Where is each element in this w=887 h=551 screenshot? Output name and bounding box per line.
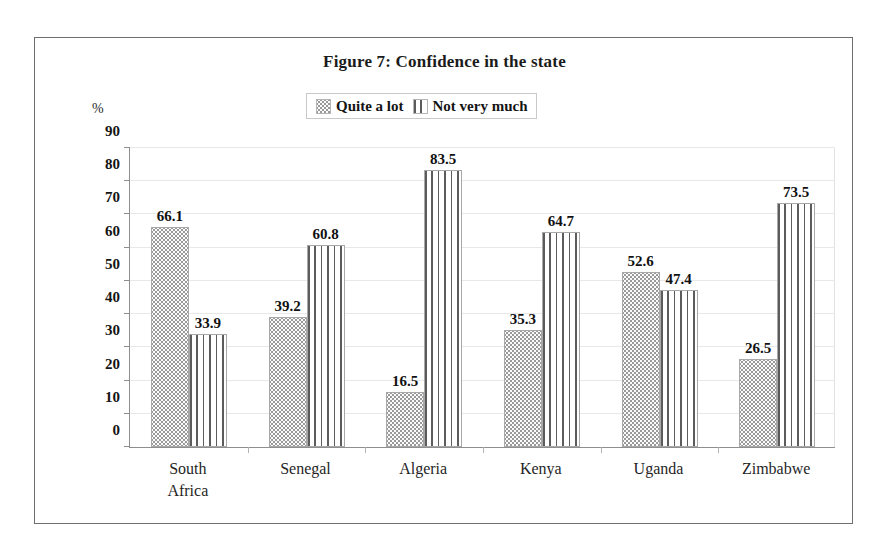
plot-area: 0102030405060708090 66.133.939.260.816.5… <box>129 148 835 448</box>
bar: 26.5 <box>739 359 777 447</box>
y-axis-tick-label: 80 <box>105 156 120 173</box>
x-axis-category-label: Kenya <box>482 458 600 480</box>
bar: 66.1 <box>151 227 189 447</box>
legend-label: Quite a lot <box>336 98 404 115</box>
chart-legend: Quite a lotNot very much <box>306 93 537 119</box>
bar-value-label: 64.7 <box>548 213 574 230</box>
legend-swatch-quite-a-lot <box>316 99 331 114</box>
bar-group: 16.583.5 <box>386 148 462 447</box>
bar-group: 35.364.7 <box>504 148 580 447</box>
x-axis-category-label: Uganda <box>600 458 718 480</box>
y-axis-tick-label: 40 <box>105 289 120 306</box>
x-axis-category-labels: South AfricaSenegalAlgeriaKenyaUgandaZim… <box>129 458 835 516</box>
bar-value-label: 73.5 <box>783 184 809 201</box>
y-axis-tick-label: 30 <box>105 322 120 339</box>
y-axis-tick-label: 10 <box>105 388 120 405</box>
bar-value-label: 35.3 <box>510 311 536 328</box>
bar: 33.9 <box>189 334 227 447</box>
bar: 47.4 <box>660 290 698 447</box>
bar-value-label: 66.1 <box>157 208 183 225</box>
y-axis-tick-label: 90 <box>105 123 120 140</box>
bar-value-label: 39.2 <box>274 298 300 315</box>
bar: 16.5 <box>386 392 424 447</box>
bar-value-label: 26.5 <box>745 340 771 357</box>
bar-group: 52.647.4 <box>622 148 698 447</box>
legend-entry: Not very much <box>413 98 528 115</box>
bar-group: 26.573.5 <box>739 148 815 447</box>
bar-value-label: 60.8 <box>312 226 338 243</box>
chart-title: Figure 7: Confidence in the state <box>35 52 854 72</box>
bar: 73.5 <box>777 203 815 447</box>
bar-group: 66.133.9 <box>151 148 227 447</box>
x-axis-category-label: Zimbabwe <box>717 458 835 480</box>
legend-label: Not very much <box>433 98 528 115</box>
y-axis-tick-label: 0 <box>113 422 121 439</box>
y-axis-tick-label: 60 <box>105 222 120 239</box>
bar-value-label: 83.5 <box>430 151 456 168</box>
bar: 39.2 <box>269 317 307 447</box>
x-axis-tick <box>248 447 249 453</box>
x-axis-category-label: Senegal <box>247 458 365 480</box>
bar: 52.6 <box>622 272 660 447</box>
bar-value-label: 16.5 <box>392 373 418 390</box>
bar-value-label: 47.4 <box>665 271 691 288</box>
x-axis-tick <box>601 447 602 453</box>
bar: 83.5 <box>424 170 462 447</box>
x-axis-category-label: Algeria <box>364 458 482 480</box>
y-axis-tick-label: 20 <box>105 355 120 372</box>
bar-value-label: 33.9 <box>195 315 221 332</box>
legend-swatch-not-very-much <box>413 99 428 114</box>
x-axis-tick <box>483 447 484 453</box>
y-axis-tick-label: 70 <box>105 189 120 206</box>
x-axis-tick <box>718 447 719 453</box>
bar-group: 39.260.8 <box>269 148 345 447</box>
x-axis-category-label: South Africa <box>129 458 247 501</box>
bar: 60.8 <box>307 245 345 447</box>
y-axis-unit-label: % <box>92 101 104 117</box>
x-axis-tick <box>365 447 366 453</box>
bar-groups-layer: 66.133.939.260.816.583.535.364.752.647.4… <box>130 148 835 447</box>
y-axis-tick-label: 50 <box>105 255 120 272</box>
legend-entry: Quite a lot <box>316 98 404 115</box>
figure-frame: Figure 7: Confidence in the state % Quit… <box>34 37 853 524</box>
bar-value-label: 52.6 <box>627 253 653 270</box>
bar: 64.7 <box>542 232 580 447</box>
bar: 35.3 <box>504 330 542 447</box>
